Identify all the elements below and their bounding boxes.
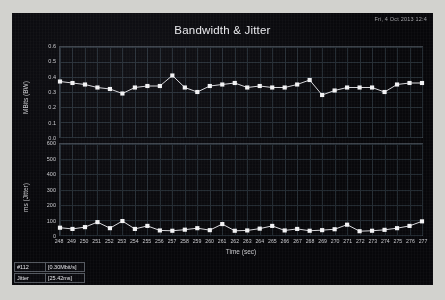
x-axis-tick-label: 267 [293,238,302,244]
series-marker [333,88,337,92]
x-axis-tick-label: 263 [243,238,252,244]
x-axis-tick-label: 253 [117,238,126,244]
series-marker [195,226,199,230]
legend-row[interactable]: Jitter[25.42ms] [14,273,85,283]
y-axis-tick-label: 0.4 [15,74,59,80]
series-line [60,76,422,96]
series-marker [283,228,287,232]
x-axis-tick-label: 252 [105,238,114,244]
series-marker [345,85,349,89]
series-marker [295,227,299,231]
series-marker [308,229,312,233]
legend-series-value: [25.42ms] [45,273,85,283]
x-axis-tick-label: 266 [281,238,290,244]
jitter-plot-area [59,143,423,236]
series-marker [195,90,199,94]
x-axis-tick-label: 260 [205,238,214,244]
series-marker [382,228,386,232]
y-axis-tick-label: 400 [15,171,59,177]
y-axis-tick-label: 0 [15,233,59,239]
bandwidth-y-axis-label: MBits (BW) [22,81,29,114]
series-marker [258,84,262,88]
series-marker [183,85,187,89]
series-marker [333,227,337,231]
x-axis-tick-label: 269 [318,238,327,244]
series-marker [407,224,411,228]
series-marker [120,219,124,223]
series-marker [220,82,224,86]
series-marker [308,78,312,82]
series-marker [83,225,87,229]
x-axis-tick-label: 265 [268,238,277,244]
x-axis-tick-label: 268 [306,238,315,244]
legend-row[interactable]: #112[0.30Mbit/s] [14,262,85,272]
bandwidth-y-ticks: 0.60.50.40.30.20.10.0 [12,46,59,138]
series-marker [233,81,237,85]
y-axis-tick-label: 0.6 [15,43,59,49]
series-marker [133,85,137,89]
series-marker [158,228,162,232]
x-axis-label: Time (sec) [59,248,423,255]
x-axis-tick-label: 255 [143,238,152,244]
x-axis-tick-label: 274 [381,238,390,244]
series-marker [258,227,262,231]
x-axis-tick-label: 261 [218,238,227,244]
x-axis-tick-label: 257 [168,238,177,244]
x-axis-tick-label: 276 [406,238,415,244]
series-marker [170,229,174,233]
series-marker [420,219,424,223]
chart-panel: Fri, 4 Oct 2013 12:4 Bandwidth & Jitter … [12,13,433,285]
timestamp-label: Fri, 4 Oct 2013 12:4 [374,16,427,22]
x-axis-tick-label: 256 [155,238,164,244]
series-marker [245,228,249,232]
series-marker [208,84,212,88]
gridline-vertical [422,47,423,137]
x-axis-tick-label: 271 [343,238,352,244]
series-marker [220,222,224,226]
series-marker [245,85,249,89]
x-axis-tick-label: 254 [130,238,139,244]
series-marker [108,226,112,230]
series-marker [270,224,274,228]
series-marker [70,227,74,231]
legend-series-name: Jitter [14,273,46,283]
x-axis-tick-label: 273 [368,238,377,244]
gridline-horizontal [60,235,422,236]
x-axis-tick-label: 249 [67,238,76,244]
x-axis-tick-label: 264 [255,238,264,244]
x-axis-tick-label: 250 [80,238,89,244]
series-marker [357,229,361,233]
x-axis-tick-label: 277 [419,238,428,244]
chart-title: Bandwidth & Jitter [12,24,433,36]
legend: #112[0.30Mbit/s]Jitter[25.42ms] [14,261,85,283]
series-marker [170,73,174,77]
series-marker [233,229,237,233]
series-marker [283,85,287,89]
screenshot-root: Fri, 4 Oct 2013 12:4 Bandwidth & Jitter … [0,0,445,300]
series-marker [83,82,87,86]
x-axis-tick-label: 272 [356,238,365,244]
y-axis-tick-label: 0.5 [15,58,59,64]
series-marker [158,84,162,88]
series-marker [395,82,399,86]
jitter-y-axis-label: ms (Jitter) [22,183,29,212]
series-marker [183,228,187,232]
y-axis-tick-label: 100 [15,218,59,224]
series-marker [320,228,324,232]
series-marker [407,81,411,85]
series-line [60,221,422,231]
x-axis-tick-label: 262 [230,238,239,244]
x-axis-tick-label: 258 [180,238,189,244]
series-marker [357,85,361,89]
series-marker [120,91,124,95]
series-marker [145,224,149,228]
y-axis-tick-label: 0.1 [15,120,59,126]
x-axis-tick-label: 259 [193,238,202,244]
y-axis-tick-label: 600 [15,140,59,146]
series-marker [208,228,212,232]
legend-series-value: [0.30Mbit/s] [45,262,85,272]
jitter-y-ticks: 6005004003002001000 [12,143,59,236]
series-marker [370,85,374,89]
series-marker [95,220,99,224]
series-marker [370,229,374,233]
